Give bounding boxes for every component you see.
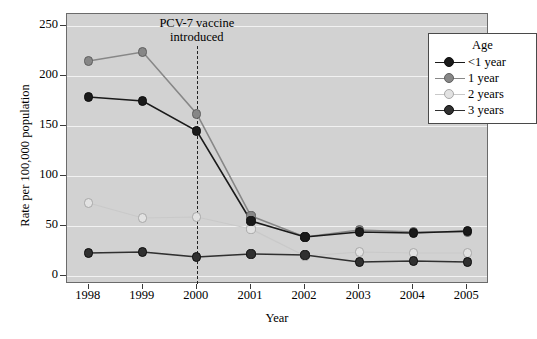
x-tick-mark xyxy=(88,284,89,289)
data-point xyxy=(463,257,472,266)
y-tick-mark xyxy=(60,75,66,76)
x-axis-title: Year xyxy=(66,311,488,326)
y-tick-label: 200 xyxy=(12,68,58,81)
legend: Age <1 year1 year2 years3 years xyxy=(428,33,537,124)
x-tick-mark xyxy=(304,284,305,289)
legend-marker-dot xyxy=(444,105,454,115)
x-tick-mark xyxy=(466,284,467,289)
x-tick-label: 1999 xyxy=(112,289,172,302)
y-tick-mark xyxy=(60,125,66,126)
data-point xyxy=(84,248,93,257)
legend-marker-icon xyxy=(435,71,465,85)
data-point xyxy=(192,126,201,135)
data-point xyxy=(192,252,201,261)
legend-title: Age xyxy=(435,38,530,53)
legend-marker-dot xyxy=(444,57,454,67)
x-tick-mark xyxy=(250,284,251,289)
y-tick-label: 250 xyxy=(12,18,58,31)
x-tick-label: 2003 xyxy=(328,289,388,302)
data-point xyxy=(84,92,93,101)
data-point xyxy=(300,232,309,241)
legend-marker-dot xyxy=(444,73,454,83)
x-tick-mark xyxy=(412,284,413,289)
legend-marker-icon xyxy=(435,87,465,101)
y-tick-mark xyxy=(60,25,66,26)
x-tick-label: 2002 xyxy=(274,289,334,302)
x-tick-label: 2001 xyxy=(220,289,280,302)
legend-item-label: 3 years xyxy=(465,103,504,118)
data-point xyxy=(409,228,418,237)
legend-item-label: <1 year xyxy=(465,55,506,70)
data-point xyxy=(463,248,472,257)
legend-item-3-years[interactable]: 3 years xyxy=(435,102,530,118)
y-tick-mark xyxy=(60,225,66,226)
data-point xyxy=(246,224,255,233)
y-axis-tick-labels: 050100150200250 xyxy=(8,0,58,339)
data-point xyxy=(192,212,201,221)
y-tick-mark xyxy=(60,175,66,176)
data-point xyxy=(138,247,147,256)
data-point xyxy=(138,213,147,222)
y-tick-label: 0 xyxy=(12,268,58,281)
y-tick-mark xyxy=(60,275,66,276)
legend-item-1-year[interactable]: 1 year xyxy=(435,70,530,86)
data-point xyxy=(84,198,93,207)
data-point xyxy=(409,256,418,265)
data-point xyxy=(463,226,472,235)
data-point xyxy=(138,47,147,56)
legend-item-2-years[interactable]: 2 years xyxy=(435,86,530,102)
plot-area: PCV-7 vaccine introduced Age <1 year1 ye… xyxy=(66,13,488,283)
x-tick-label: 2005 xyxy=(436,289,496,302)
data-point xyxy=(300,250,309,259)
x-tick-label: 2004 xyxy=(382,289,442,302)
series-line xyxy=(89,52,468,237)
data-series-layer xyxy=(67,14,489,284)
legend-marker-dot xyxy=(444,89,454,99)
data-point xyxy=(192,109,201,118)
x-tick-mark xyxy=(142,284,143,289)
data-point xyxy=(355,247,364,256)
x-tick-label: 1998 xyxy=(58,289,118,302)
x-tick-mark xyxy=(358,284,359,289)
data-point xyxy=(138,96,147,105)
x-tick-mark xyxy=(196,284,197,289)
legend-marker-icon xyxy=(435,55,465,69)
legend-item-label: 1 year xyxy=(465,71,499,86)
legend-item--1-year[interactable]: <1 year xyxy=(435,54,530,70)
data-point xyxy=(355,257,364,266)
y-tick-label: 100 xyxy=(12,168,58,181)
legend-item-label: 2 years xyxy=(465,87,504,102)
data-point xyxy=(246,249,255,258)
x-tick-label: 2000 xyxy=(166,289,226,302)
series-lines xyxy=(67,14,489,284)
data-point xyxy=(84,56,93,65)
y-tick-label: 150 xyxy=(12,118,58,131)
data-point xyxy=(246,216,255,225)
legend-marker-icon xyxy=(435,103,465,117)
y-tick-label: 50 xyxy=(12,218,58,231)
legend-items: <1 year1 year2 years3 years xyxy=(435,54,530,118)
data-point xyxy=(355,227,364,236)
